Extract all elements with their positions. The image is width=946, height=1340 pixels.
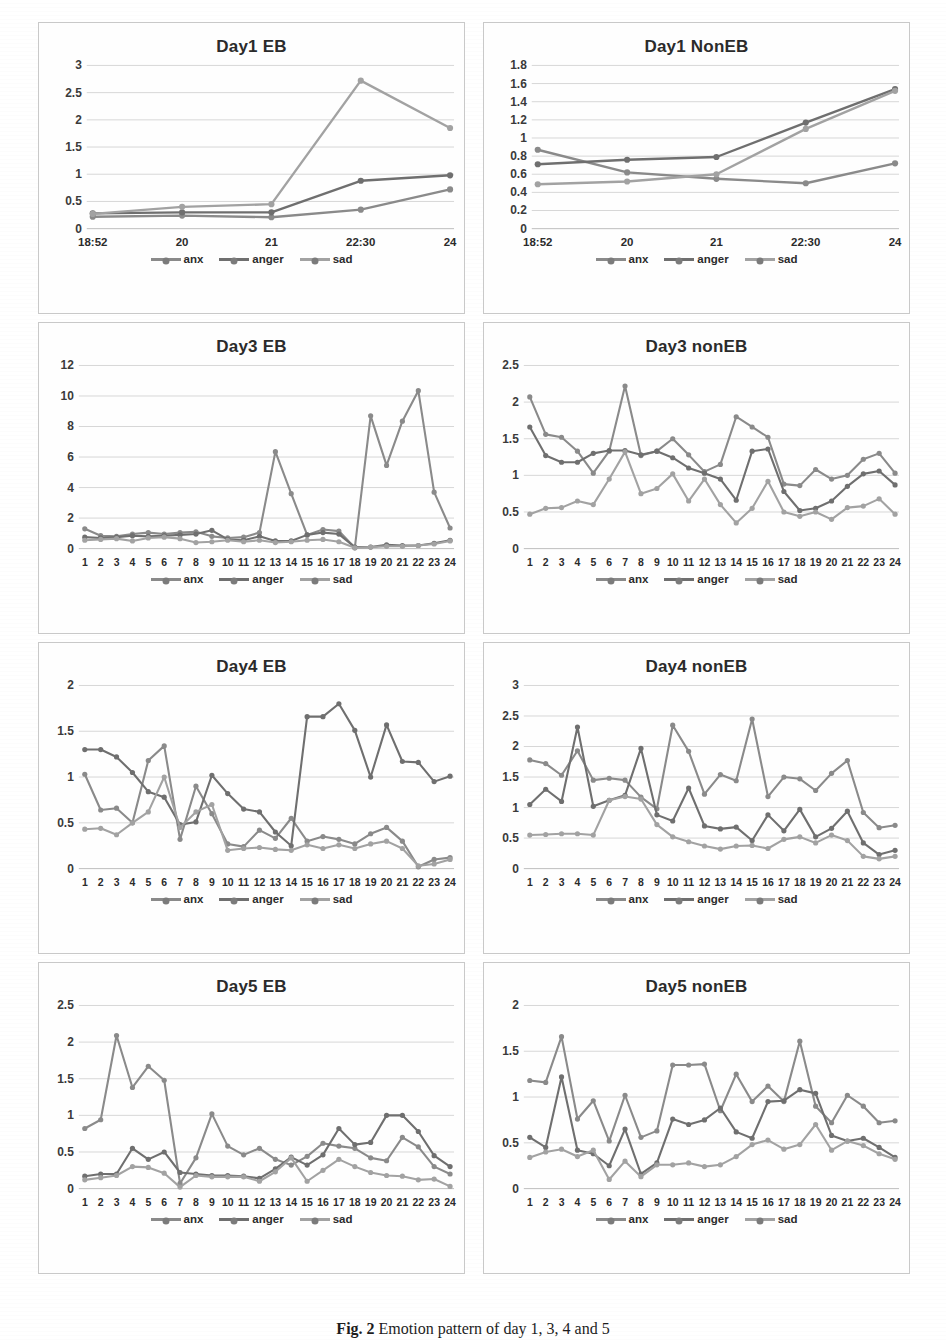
x-axis-tick-label: 17 [778,557,790,568]
x-axis-tick-label: 22 [412,877,424,888]
data-point [861,1143,866,1148]
data-point [734,843,739,848]
y-axis-tick-label: 0 [512,542,519,556]
x-axis-tick-label: 21 [265,236,278,248]
data-point [400,839,405,844]
y-axis-tick-label: 0.5 [57,816,74,830]
data-point [447,525,452,530]
data-point [877,1145,882,1150]
data-point [98,747,103,752]
chart-legend: anxangersad [484,1213,909,1231]
x-axis-tick-label: 6 [606,877,612,888]
data-point [179,209,185,215]
data-point [257,1146,262,1151]
chart-svg: 00.511.522.53123456789101112131415161718… [484,677,909,895]
x-axis-tick-label: 14 [730,557,742,568]
data-point [797,1087,802,1092]
data-point [336,1126,341,1131]
data-point [82,772,87,777]
data-point [368,831,373,836]
data-point [384,544,389,549]
data-point [575,1154,580,1159]
x-axis-tick-label: 9 [654,1197,660,1208]
x-axis-tick-label: 24 [444,557,456,568]
data-point [384,1113,389,1118]
data-point [416,1129,421,1134]
chart-title: Day5 nonEB [484,963,909,997]
data-point [114,806,119,811]
data-point [702,792,707,797]
data-point [543,787,548,792]
data-point [829,498,834,503]
data-point [114,754,119,759]
data-point [177,536,182,541]
data-point [892,160,898,166]
data-point [193,784,198,789]
x-axis-tick-label: 3 [559,877,565,888]
data-point [686,1122,691,1127]
data-point [98,1175,103,1180]
y-axis-tick-label: 2 [75,113,82,127]
data-point [718,1105,723,1110]
data-point [209,539,214,544]
data-point [305,532,310,537]
chart-svg: 00.511.521234567891011121314151617181920… [39,677,464,895]
data-point [781,828,786,833]
data-point [352,728,357,733]
data-point [114,536,119,541]
chart-panel-day3-eb: Day3 EB024681012123456789101112131415161… [38,322,465,634]
chart-title: Day4 EB [39,643,464,677]
data-point [702,476,707,481]
x-axis-tick-label: 8 [193,877,199,888]
data-point [750,1136,755,1141]
x-axis-tick-label: 15 [301,877,313,888]
plot-area: 00.511.522.51234567891011121314151617181… [39,997,464,1215]
data-point [177,825,182,830]
legend-swatch-icon [151,898,181,901]
data-point [225,1174,230,1179]
data-point [209,1174,214,1179]
data-point [400,544,405,549]
data-point [289,1155,294,1160]
data-point [543,506,548,511]
data-point [193,809,198,814]
x-axis-tick-label: 16 [762,1197,774,1208]
x-axis-tick-label: 18 [349,877,361,888]
y-axis-tick-label: 0 [67,542,74,556]
data-point [209,802,214,807]
data-point [352,545,357,550]
x-axis-tick-label: 3 [559,557,565,568]
y-axis-tick-label: 1.5 [57,724,74,738]
data-point [352,1164,357,1169]
data-point [384,463,389,468]
data-point [320,846,325,851]
legend-swatch-icon [151,1218,181,1221]
data-point [447,774,452,779]
x-axis-tick-label: 11 [683,557,694,568]
series-line-anx [530,386,895,486]
x-axis-tick-label: 14 [730,1197,742,1208]
x-axis-tick-label: 1 [82,877,88,888]
data-point [384,1158,389,1163]
y-axis-tick-label: 0.5 [502,505,519,519]
data-point [447,538,452,543]
legend-swatch-icon [664,898,694,901]
data-point [527,1078,532,1083]
data-point [336,701,341,706]
y-axis-tick-label: 2 [67,1035,74,1049]
x-axis-tick-label: 24 [889,1197,901,1208]
y-axis-tick-label: 8 [67,420,74,434]
data-point [638,796,643,801]
data-point [892,88,898,94]
data-point [336,837,341,842]
data-point [193,540,198,545]
chart-legend: anxangersad [39,573,464,591]
x-axis-tick-label: 14 [285,1197,297,1208]
data-point [146,535,151,540]
data-point [400,1174,405,1179]
data-point [225,1144,230,1149]
chart-legend: anxangersad [484,893,909,911]
data-point [320,714,325,719]
data-point [535,181,541,187]
data-point [575,1116,580,1121]
